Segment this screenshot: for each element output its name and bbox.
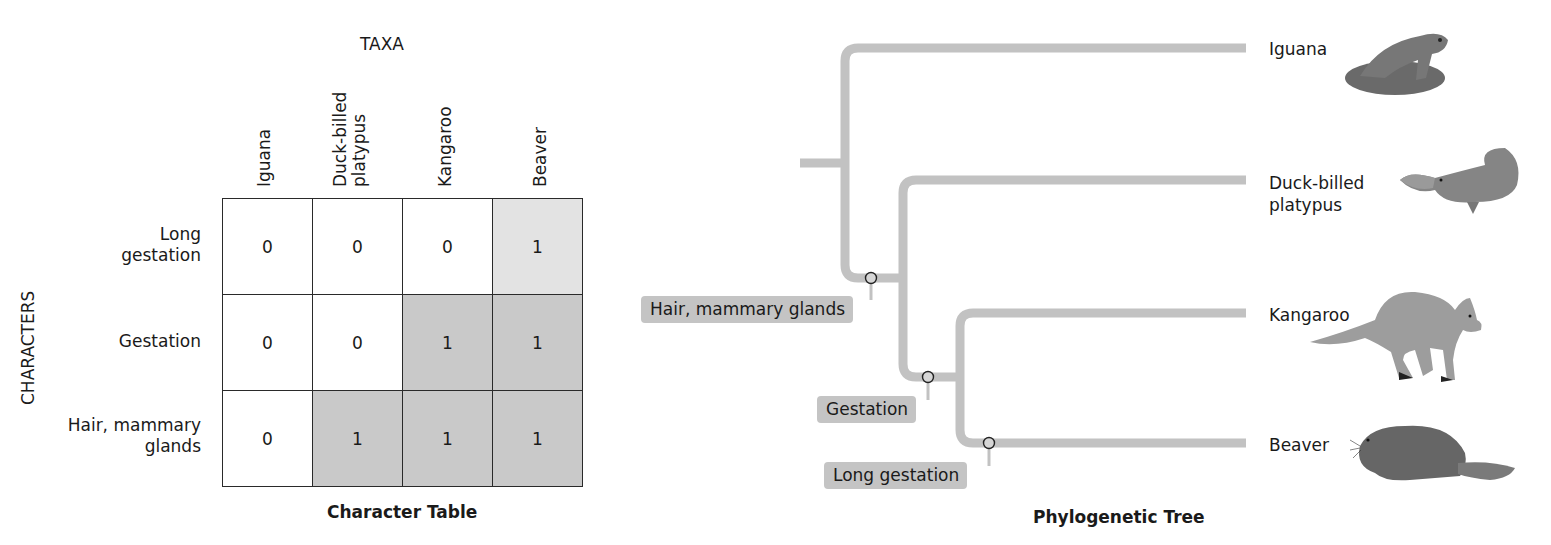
tree-branches: [0, 0, 1551, 545]
leaf-label-beaver: Beaver: [1269, 434, 1329, 456]
character-tag-hair-mammary: Hair, mammary glands: [641, 296, 853, 323]
character-tag-long-gestation: Long gestation: [824, 462, 967, 489]
phylogenetic-tree-caption: Phylogenetic Tree: [1033, 507, 1205, 527]
kangaroo-icon: [1305, 280, 1505, 390]
iguana-icon: [1340, 18, 1460, 100]
node-gestation: [923, 372, 934, 383]
character-tag-gestation: Gestation: [817, 396, 916, 423]
leaf-label-iguana: Iguana: [1269, 38, 1327, 60]
node-hair-mammary: [866, 273, 877, 284]
platypus-icon: [1395, 140, 1525, 220]
beaver-icon: [1350, 418, 1520, 488]
node-long-gestation: [984, 438, 995, 449]
leaf-label-platypus: Duck-billed platypus: [1269, 172, 1364, 216]
